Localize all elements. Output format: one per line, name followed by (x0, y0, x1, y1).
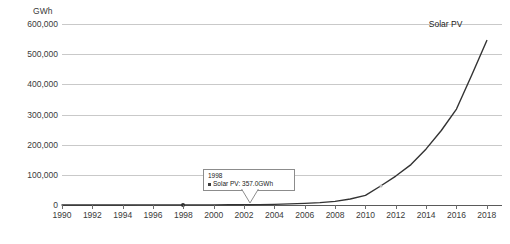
tooltip-pointer (241, 188, 259, 204)
y-axis-tick-label: 300,000 (0, 110, 58, 119)
y-axis-tick-label: 100,000 (0, 171, 58, 180)
x-axis-tick-mark (244, 205, 245, 209)
y-axis-tick-label: 500,000 (0, 50, 58, 59)
series-end-label: Solar PV (429, 19, 463, 29)
x-axis-tick-mark (92, 205, 93, 209)
x-axis-labels: 1990199219941996199820002002200420062008… (0, 210, 510, 230)
x-axis-tick-mark (274, 205, 275, 209)
x-axis-tick-mark (365, 205, 366, 209)
y-axis-tick-label: 400,000 (0, 80, 58, 89)
x-axis-tick-mark (153, 205, 154, 209)
x-axis-tick-mark (123, 205, 124, 209)
x-axis-tick-label: 2018 (467, 210, 507, 220)
tooltip-title: 1998 (208, 172, 290, 180)
solar-pv-line-chart: GWh 600,000500,000400,000300,000200,0001… (0, 0, 510, 244)
x-axis-tick-mark (183, 205, 184, 209)
x-axis-tick-mark (487, 205, 488, 209)
series-swatch-icon (208, 183, 211, 186)
x-axis-tick-mark (62, 205, 63, 209)
x-axis-tick-mark (426, 205, 427, 209)
x-axis-tick-mark (335, 205, 336, 209)
y-axis-tick-label: 600,000 (0, 20, 58, 29)
x-axis-tick-mark (396, 205, 397, 209)
data-point-marker-2011 (379, 184, 382, 187)
x-axis-tick-mark (305, 205, 306, 209)
y-axis-labels: 600,000500,000400,000300,000200,000100,0… (0, 0, 58, 244)
x-axis-tick-mark (456, 205, 457, 209)
y-axis-tick-label: 200,000 (0, 140, 58, 149)
x-axis-tick-mark (214, 205, 215, 209)
y-axis-tick-label: 0 (0, 201, 58, 210)
